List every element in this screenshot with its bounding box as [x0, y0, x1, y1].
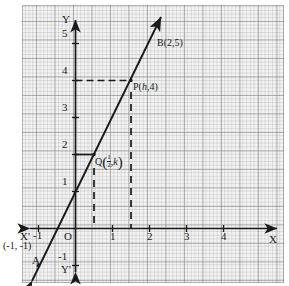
point-label-P: P(h,4): [133, 82, 158, 92]
right-paren: ): [118, 155, 123, 170]
point-label-B: B(2,5): [157, 38, 183, 48]
y-axis-label: Y: [62, 14, 70, 25]
fraction-denominator: 2: [107, 161, 111, 169]
x-tick-1: 1: [110, 231, 116, 242]
fraction-one-half: 12: [107, 154, 111, 170]
y-tick-2: 2: [62, 139, 68, 150]
x-tick-4: 4: [221, 231, 227, 242]
y-tick-4: 4: [62, 65, 68, 76]
graph-drawing: [0, 0, 289, 286]
point-Q-prefix: Q: [95, 156, 102, 167]
x-tick-3: 3: [184, 231, 190, 242]
point-label-A: A: [32, 255, 40, 266]
x-tick--1: -1: [33, 230, 42, 241]
figure-canvas: Y Y' X X' O -1 1 2 3 4 5 4 3 2 1 -1 B(2,…: [0, 0, 289, 286]
point-P-suffix: ,4): [147, 81, 158, 92]
line-AB: [32, 17, 161, 281]
y-tick-3: 3: [62, 102, 68, 113]
point-label-Q: Q(12,k): [95, 155, 123, 171]
point-P-prefix: P(: [133, 81, 142, 92]
y-tick-5: 5: [62, 28, 68, 39]
fraction-numerator: 1: [107, 154, 111, 161]
origin-label: O: [64, 231, 72, 242]
y-axis-negative-label: Y': [61, 264, 71, 275]
point-A-coordinates: (-1, -1): [3, 241, 31, 251]
y-tick--1: -1: [58, 251, 67, 262]
x-tick-2: 2: [147, 231, 153, 242]
y-tick-1: 1: [62, 176, 68, 187]
x-axis-label: X: [269, 234, 277, 245]
